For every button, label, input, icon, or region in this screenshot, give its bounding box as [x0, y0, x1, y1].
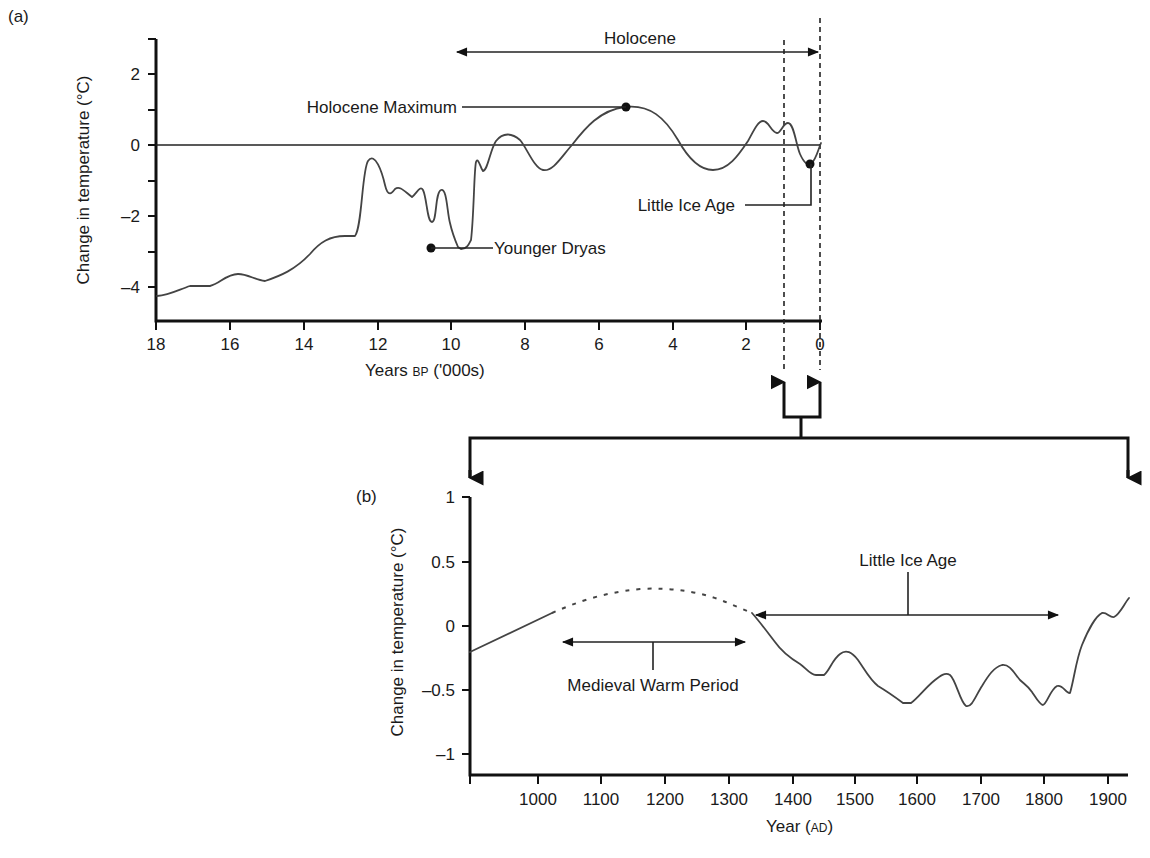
svg-text:–1: –1 [436, 745, 455, 764]
medieval-warm-period-label: Medieval Warm Period [567, 676, 738, 695]
svg-text:0: 0 [446, 617, 455, 636]
svg-text:1400: 1400 [774, 790, 812, 809]
svg-text:–4: –4 [121, 278, 140, 297]
svg-text:1000: 1000 [519, 790, 557, 809]
svg-text:4: 4 [668, 335, 677, 354]
svg-text:10: 10 [442, 335, 461, 354]
panel-b-axes [470, 497, 1128, 775]
svg-text:6: 6 [594, 335, 603, 354]
panel-b-curve-solid-early [470, 613, 552, 652]
panel-a-x-axis-label: Years BP ('000s) [365, 361, 485, 380]
panel-a-y-axis-label: Change in temperature (°C) [74, 75, 93, 284]
panel-b-x-tick-labels: 1000 1100 1200 1300 1400 1500 1600 1700 … [519, 790, 1127, 809]
svg-text:1100: 1100 [583, 790, 620, 809]
younger-dryas-label: Younger Dryas [494, 239, 606, 258]
little-ice-age-leader-a [745, 164, 811, 205]
svg-text:–2: –2 [121, 207, 140, 226]
svg-text:2: 2 [131, 65, 140, 84]
svg-text:2: 2 [741, 335, 750, 354]
panel-b-y-axis-label: Change in temperature (°C) [388, 527, 407, 736]
zoom-connector [470, 382, 1128, 478]
panel-b-y-tick-labels: 1 0.5 0 –0.5 –1 [422, 488, 455, 764]
svg-text:1700: 1700 [962, 790, 1000, 809]
svg-text:1800: 1800 [1025, 790, 1063, 809]
svg-text:1900: 1900 [1089, 790, 1127, 809]
svg-text:16: 16 [221, 335, 240, 354]
svg-text:–0.5: –0.5 [422, 681, 455, 700]
svg-text:1300: 1300 [710, 790, 748, 809]
svg-text:8: 8 [520, 335, 529, 354]
panel-b-x-axis-label: Year (AD) [766, 817, 833, 836]
holocene-label: Holocene [604, 29, 676, 48]
panel-b-label: (b) [356, 487, 377, 506]
svg-text:1500: 1500 [836, 790, 874, 809]
svg-text:1: 1 [446, 488, 455, 507]
svg-text:18: 18 [147, 335, 166, 354]
svg-text:14: 14 [295, 335, 314, 354]
little-ice-age-label-b: Little Ice Age [859, 551, 956, 570]
svg-text:12: 12 [369, 335, 388, 354]
svg-text:1200: 1200 [646, 790, 684, 809]
panel-b-curve-dashed-inferred [552, 589, 752, 613]
panel-b: (b) Change in temperature (°C) 1 0.5 0 –… [356, 487, 1129, 836]
panel-a: (a) Change in temperature (°C) 2 0 –2 –4 [8, 7, 825, 380]
panel-a-y-tick-labels: 2 0 –2 –4 [121, 65, 140, 297]
little-ice-age-marker-a [806, 160, 815, 169]
figure: (a) Change in temperature (°C) 2 0 –2 –4 [0, 0, 1150, 858]
svg-text:1600: 1600 [898, 790, 936, 809]
svg-text:0.5: 0.5 [431, 553, 455, 572]
little-ice-age-label-a: Little Ice Age [638, 196, 735, 215]
svg-text:0: 0 [131, 136, 140, 155]
panel-a-label: (a) [8, 7, 29, 26]
holocene-maximum-label: Holocene Maximum [307, 98, 457, 117]
panel-a-x-tick-labels: 18 16 14 12 10 8 6 4 2 0 [147, 335, 825, 354]
